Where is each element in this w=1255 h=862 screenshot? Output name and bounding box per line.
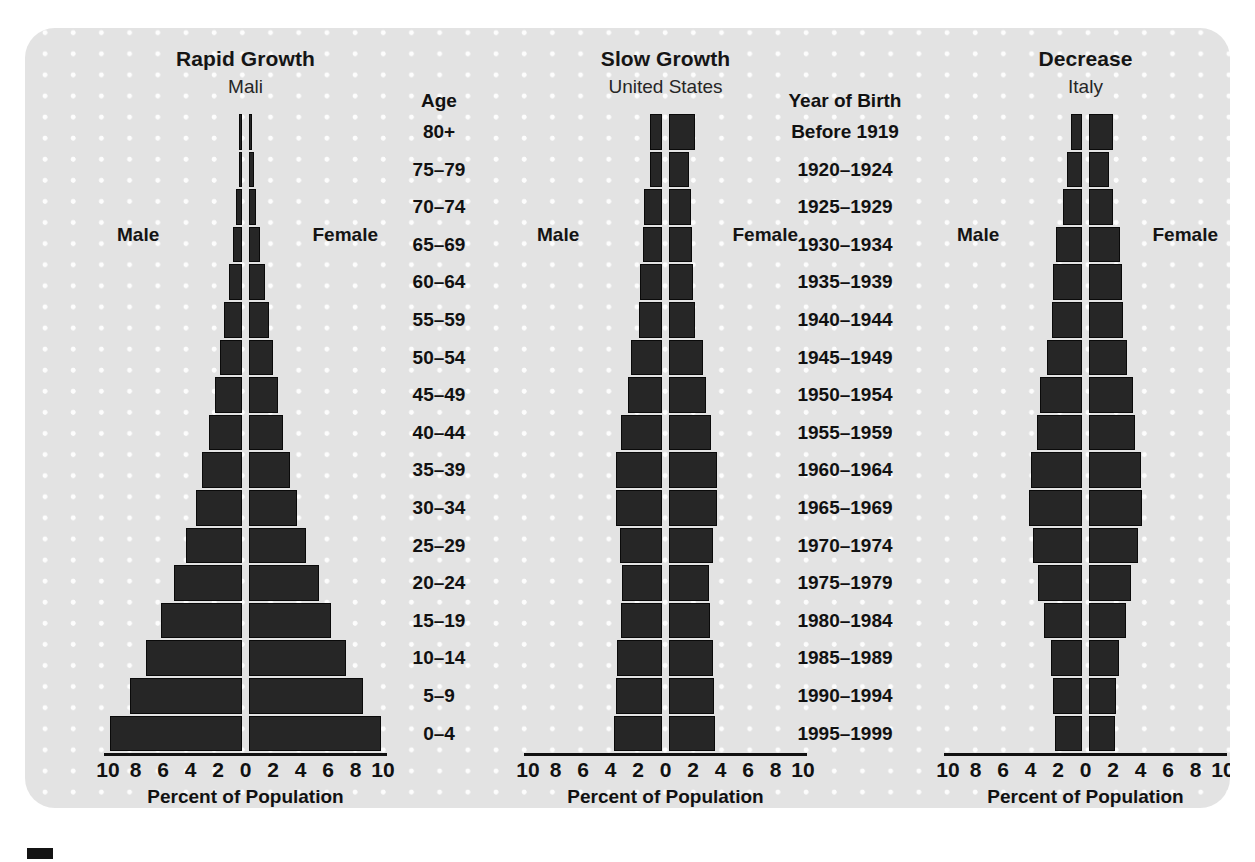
bar-female: [669, 152, 690, 188]
pyramid-row: [73, 339, 418, 377]
bar-female: [1089, 640, 1119, 676]
pyramid-row: [913, 226, 1230, 264]
bar-male: [616, 452, 663, 488]
bar-male: [622, 565, 662, 601]
bar-female: [669, 114, 695, 150]
age-column: Age 80+75–7970–7465–6960–6455–5950–5445–…: [380, 28, 498, 808]
category-label: 65–69: [380, 226, 498, 264]
bar-female: [249, 302, 269, 338]
bar-female: [249, 114, 252, 150]
bar-male: [643, 227, 662, 263]
category-label: 55–59: [380, 301, 498, 339]
category-label: 25–29: [380, 527, 498, 565]
axis-tick: 4: [1025, 758, 1037, 782]
bar-female: [669, 189, 691, 225]
year-of-birth-column-list: Before 19191920–19241925–19291930–193419…: [765, 113, 925, 753]
bar-male: [174, 565, 243, 601]
axis-tick: 10: [516, 758, 539, 782]
bar-male: [1040, 377, 1083, 413]
bar-female: [669, 565, 709, 601]
axis-tick: 6: [322, 758, 334, 782]
bar-male: [1047, 340, 1083, 376]
category-label: 1975–1979: [765, 564, 925, 602]
category-label: 1935–1939: [765, 263, 925, 301]
category-label: 45–49: [380, 376, 498, 414]
bar-female: [1089, 528, 1139, 564]
bar-female: [1089, 603, 1126, 639]
bar-female: [249, 528, 307, 564]
bar-male: [1031, 452, 1082, 488]
category-label: 1995–1999: [765, 715, 925, 753]
pyramid-row: [73, 602, 418, 640]
pyramid-row: [913, 188, 1230, 226]
bar-female: [1089, 302, 1123, 338]
axis-tick: 8: [550, 758, 562, 782]
bar-male: [239, 152, 242, 188]
bar-female: [249, 452, 290, 488]
bar-female: [249, 340, 273, 376]
panel-italy-plot: [913, 113, 1230, 753]
bar-male: [650, 114, 662, 150]
bar-female: [669, 415, 712, 451]
category-label: 60–64: [380, 263, 498, 301]
bar-female: [1089, 340, 1128, 376]
category-label: 40–44: [380, 414, 498, 452]
bar-female: [669, 452, 717, 488]
bar-male: [1038, 565, 1082, 601]
bar-male: [186, 528, 242, 564]
category-label: 5–9: [380, 677, 498, 715]
axis-tick: 2: [1052, 758, 1064, 782]
bar-male: [1044, 603, 1083, 639]
axis-tick: 6: [577, 758, 589, 782]
bar-female: [669, 340, 703, 376]
axis-tick: 4: [715, 758, 727, 782]
bar-female: [1089, 678, 1117, 714]
bar-female: [249, 678, 363, 714]
bar-female: [669, 302, 695, 338]
pyramid-row: [73, 301, 418, 339]
axis-tick: 2: [632, 758, 644, 782]
bar-male: [1052, 302, 1082, 338]
axis-tick: 2: [1107, 758, 1119, 782]
axis-tick: 6: [742, 758, 754, 782]
bar-female: [249, 377, 278, 413]
bar-male: [1067, 152, 1082, 188]
pyramid-row: [913, 151, 1230, 189]
panel-mali-title: Rapid Growth: [73, 47, 418, 71]
category-label: 1940–1944: [765, 301, 925, 339]
bar-female: [1089, 716, 1115, 752]
category-label: 1960–1964: [765, 451, 925, 489]
bar-male: [650, 152, 662, 188]
axis-tick: 10: [936, 758, 959, 782]
bar-male: [1033, 528, 1083, 564]
panel-mali-axis-caption: Percent of Population: [73, 786, 418, 808]
bar-male: [1051, 640, 1083, 676]
bar-female: [669, 603, 710, 639]
pyramid-row: [913, 376, 1230, 414]
axis-tick: 8: [350, 758, 362, 782]
bar-male: [1029, 490, 1083, 526]
panel-italy-subtitle: Italy: [913, 76, 1230, 98]
category-label: 10–14: [380, 639, 498, 677]
bar-male: [1055, 716, 1083, 752]
bar-male: [621, 415, 662, 451]
bar-male: [220, 340, 242, 376]
panel-mali-axis-ticks: 1086420246810: [73, 758, 418, 784]
bar-female: [669, 716, 716, 752]
axis-tick: 8: [1190, 758, 1202, 782]
category-label: 1985–1989: [765, 639, 925, 677]
pyramid-row: [913, 263, 1230, 301]
bar-male: [617, 640, 662, 676]
pyramid-row: [913, 489, 1230, 527]
axis-tick: 6: [1162, 758, 1174, 782]
axis-tick: 2: [687, 758, 699, 782]
pyramid-row: [73, 376, 418, 414]
category-label: 1955–1959: [765, 414, 925, 452]
pyramid-row: [913, 602, 1230, 640]
panel-italy-title: Decrease: [913, 47, 1230, 71]
axis-tick: 6: [157, 758, 169, 782]
category-label: 30–34: [380, 489, 498, 527]
pyramid-row: [913, 339, 1230, 377]
bar-female: [669, 528, 713, 564]
axis-tick: 2: [267, 758, 279, 782]
